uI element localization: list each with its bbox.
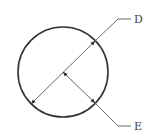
label-e: E [134, 120, 142, 133]
circle-dimension-diagram: D E [0, 0, 152, 139]
radius-leader-line [95, 103, 131, 126]
label-d: D [134, 13, 143, 26]
diameter-leader-line [95, 19, 131, 41]
radius-line [63, 72, 95, 103]
